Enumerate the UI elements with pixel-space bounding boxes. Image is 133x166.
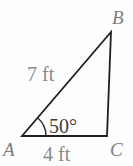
angle-label: 50° bbox=[49, 115, 77, 137]
side-label-hypotenuse: 7 ft bbox=[27, 63, 55, 85]
triangle-figure: A B C 7 ft 4 ft 50° bbox=[0, 0, 133, 166]
triangle-diagram-svg: A B C 7 ft 4 ft 50° bbox=[0, 0, 133, 166]
angle-arc bbox=[38, 118, 46, 136]
vertex-label-c: C bbox=[110, 139, 123, 160]
side-label-base: 4 ft bbox=[43, 143, 71, 165]
vertex-label-b: B bbox=[112, 7, 124, 28]
vertex-label-a: A bbox=[1, 139, 15, 160]
